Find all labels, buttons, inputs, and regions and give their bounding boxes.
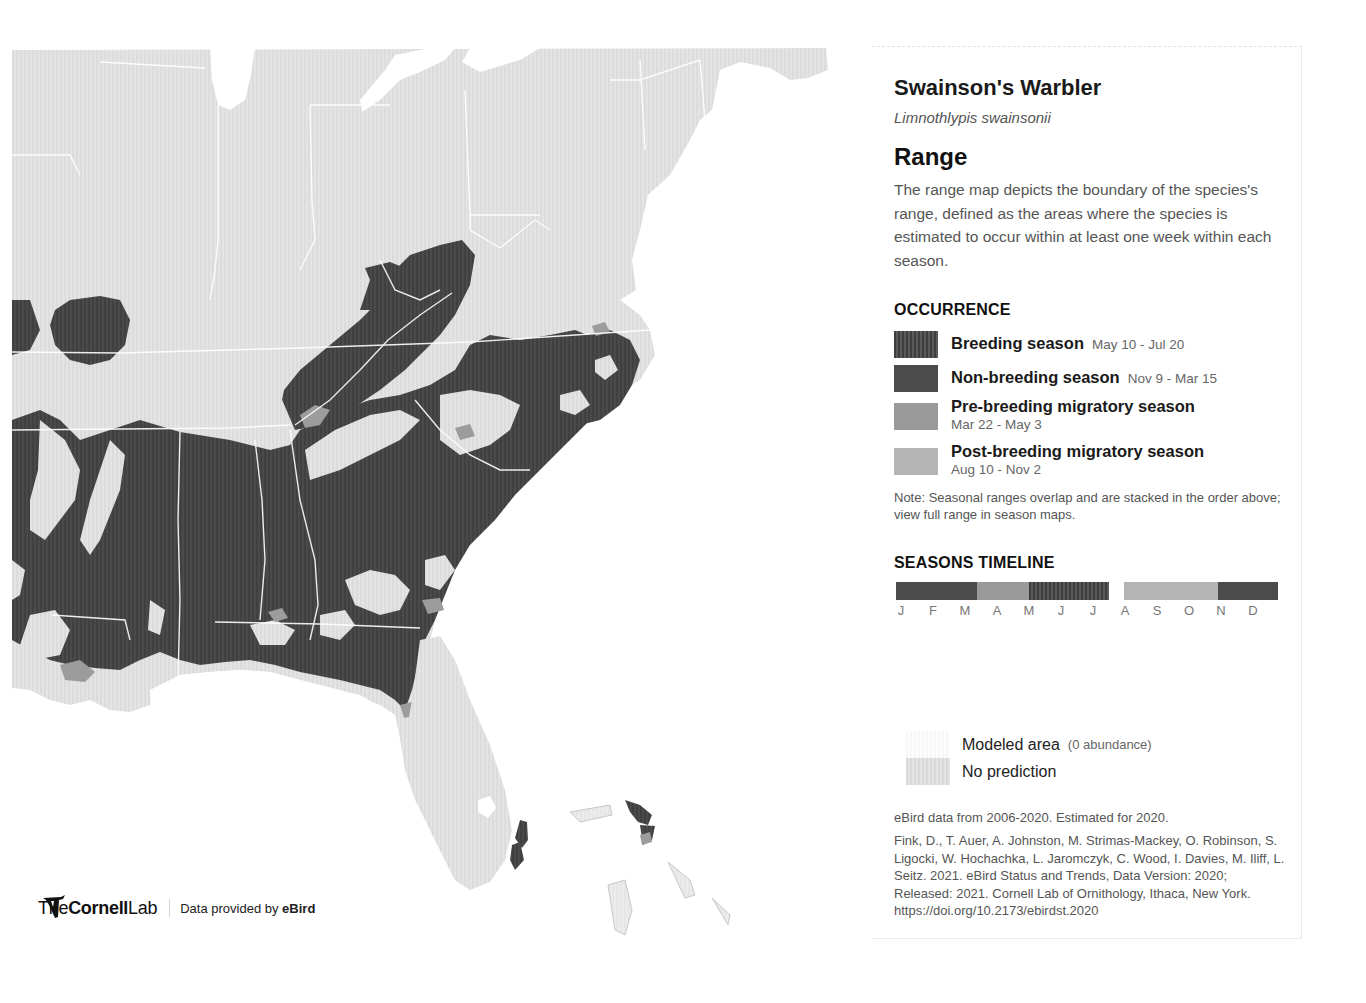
prebreeding-swatch: [894, 403, 938, 430]
legend-label: Breeding season: [951, 334, 1084, 352]
florida-peninsula: [405, 636, 524, 890]
month-label: J: [1054, 603, 1068, 618]
section-title-range: Range: [894, 143, 967, 171]
month-label: D: [1246, 603, 1260, 618]
nonbreeding-swatch: [894, 365, 938, 392]
month-label: O: [1182, 603, 1196, 618]
month-label: N: [1214, 603, 1228, 618]
month-label: A: [1118, 603, 1132, 618]
ebird-brand-link[interactable]: eBird: [282, 901, 315, 916]
legend-dates: Mar 22 - May 3: [951, 417, 1195, 432]
month-label: J: [894, 603, 908, 618]
legend-item-nonbreeding: Non-breeding seasonNov 9 - Mar 15: [894, 365, 1217, 392]
month-label: J: [1086, 603, 1100, 618]
timeline-segment-postbreeding: [1124, 582, 1218, 600]
timeline-segment-nonbreeding: [896, 582, 977, 600]
seasons-timeline-bar: [896, 582, 1280, 600]
logo-cornell: Cornell: [68, 898, 128, 919]
legend-item-prebreeding: Pre-breeding migratory season Mar 22 - M…: [894, 397, 1195, 432]
modeled-area-sub: (0 abundance): [1068, 737, 1152, 752]
month-label: S: [1150, 603, 1164, 618]
modeled-area-label: Modeled area: [962, 736, 1060, 754]
legend-dates: Aug 10 - Nov 2: [951, 462, 1204, 477]
timeline-segment-breeding: [1029, 582, 1109, 600]
occurrence-note: Note: Seasonal ranges overlap and are st…: [894, 489, 1286, 523]
seasons-timeline-heading: SEASONS TIMELINE: [894, 554, 1055, 572]
range-map[interactable]: TheCornellLab Data provided by eBird: [0, 0, 860, 960]
legend-item-no-prediction: No prediction: [906, 758, 1056, 785]
timeline-month-labels: J F M A M J J A S O N D: [894, 603, 1294, 619]
cornell-lab-logo[interactable]: TheCornellLab: [38, 898, 157, 919]
legend-item-breeding: Breeding seasonMay 10 - Jul 20: [894, 331, 1184, 358]
range-map-svg: [0, 0, 860, 960]
timeline-segment-prebreeding: [977, 582, 1029, 600]
legend-item-modeled-area: Modeled area(0 abundance): [906, 731, 1152, 758]
data-years-note: eBird data from 2006-2020. Estimated for…: [894, 810, 1169, 825]
month-label: M: [958, 603, 972, 618]
occurrence-heading: OCCURRENCE: [894, 301, 1011, 319]
legend-label: Pre-breeding migratory season: [951, 397, 1195, 415]
legend-dates: Nov 9 - Mar 15: [1128, 371, 1217, 386]
woodpecker-logo-icon: [41, 893, 67, 919]
month-label: F: [926, 603, 940, 618]
legend-panel: Swainson's Warbler Limnothlypis swainson…: [872, 46, 1302, 939]
breeding-swatch: [894, 331, 938, 358]
range-description: The range map depicts the boundary of th…: [894, 178, 1286, 272]
species-scientific-name: Limnothlypis swainsonii: [894, 109, 1051, 126]
month-label: M: [1022, 603, 1036, 618]
legend-item-postbreeding: Post-breeding migratory season Aug 10 - …: [894, 442, 1204, 477]
logo-lab: Lab: [128, 898, 157, 919]
postbreeding-swatch: [894, 448, 938, 475]
species-common-name: Swainson's Warbler: [894, 75, 1101, 101]
timeline-segment-nonbreeding-late: [1218, 582, 1278, 600]
map-credits: TheCornellLab Data provided by eBird: [38, 893, 315, 923]
no-prediction-label: No prediction: [962, 763, 1056, 781]
data-provided-prefix: Data provided by: [180, 901, 282, 916]
month-label: A: [990, 603, 1004, 618]
data-provided-by: Data provided by eBird: [180, 901, 315, 916]
legend-dates: May 10 - Jul 20: [1092, 337, 1184, 352]
citation-text: Fink, D., T. Auer, A. Johnston, M. Strim…: [894, 832, 1286, 920]
legend-label: Non-breeding season: [951, 368, 1120, 386]
credits-divider: [169, 899, 170, 917]
legend-label: Post-breeding migratory season: [951, 442, 1204, 460]
no-prediction-swatch: [906, 758, 950, 785]
modeled-area-swatch: [906, 731, 950, 758]
